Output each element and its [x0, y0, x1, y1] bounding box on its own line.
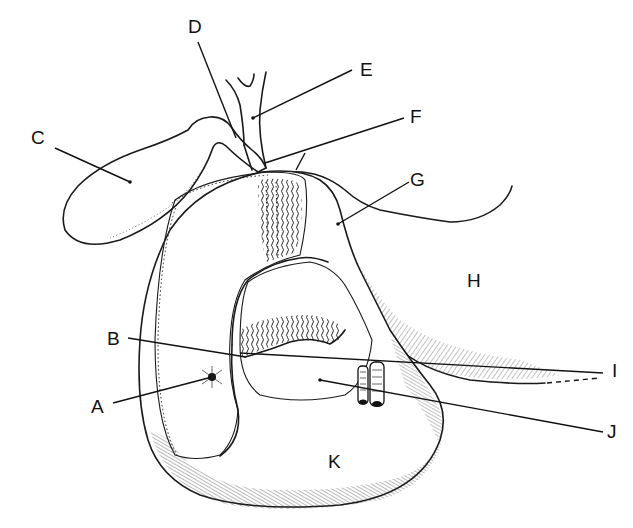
label-g: G — [410, 170, 425, 189]
label-c: C — [31, 128, 45, 147]
mesenteric-vessels — [358, 362, 384, 407]
duodenum-diagram — [0, 0, 633, 528]
label-d: D — [188, 17, 202, 36]
label-a: A — [91, 397, 104, 416]
label-i: I — [612, 361, 617, 380]
label-k: K — [328, 452, 341, 471]
label-j: J — [607, 422, 617, 441]
label-h: H — [467, 271, 481, 290]
label-b: B — [107, 329, 120, 348]
label-e: E — [360, 60, 373, 79]
label-f: F — [410, 107, 422, 126]
